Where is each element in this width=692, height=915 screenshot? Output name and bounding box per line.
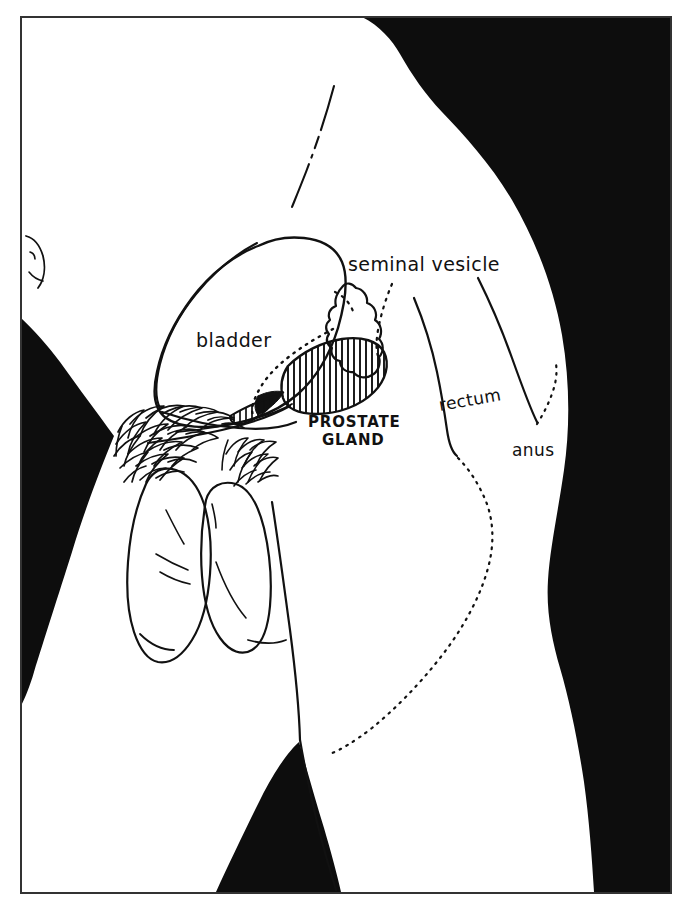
frame-rect xyxy=(21,17,671,893)
figure-frame xyxy=(0,0,692,915)
figure-canvas: bladder seminal vesicle PROSTATE GLAND r… xyxy=(0,0,692,915)
